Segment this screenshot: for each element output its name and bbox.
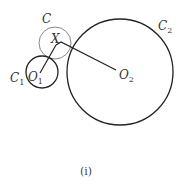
label-c2: C2 [158, 19, 172, 35]
label-o2: O2 [119, 68, 134, 84]
label-c1: C1 [10, 71, 24, 87]
label-c: C [42, 12, 51, 26]
geometry-diagram: C X C1 O1 O2 C2 (i) [0, 0, 181, 193]
label-x: X [50, 32, 60, 46]
figure-caption: (i) [80, 165, 92, 178]
